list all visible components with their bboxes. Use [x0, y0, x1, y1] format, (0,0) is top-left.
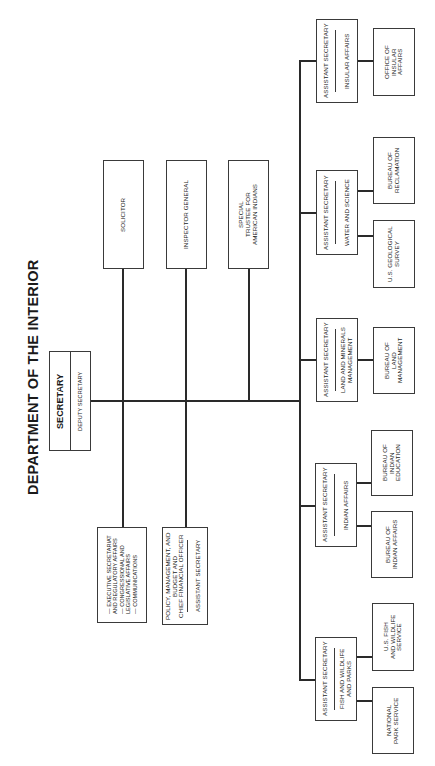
- solicitor-box: SOLICITOR: [103, 160, 144, 269]
- as-area: INDIAN AFFAIRS: [335, 464, 357, 546]
- us-fish-and-wildlife-service-box: U.S. FISH AND WILDLIFE SERVICE: [372, 603, 414, 671]
- as-area: FISH AND WILDLIFE AND PARKS: [335, 638, 357, 720]
- bureau-label: U.S. FISH AND WILDLIFE SERVICE: [373, 604, 413, 670]
- special-trustee-label: SPECIAL TRUSTEE FOR AMERICAN INDIANS: [229, 161, 268, 268]
- connector-office-insular: [357, 60, 373, 62]
- connector-as-water: [299, 212, 317, 214]
- bureau-label: BUREAU OF RECLAMATION: [374, 138, 414, 203]
- as-title: ASSISTANT SECRETARY: [316, 464, 334, 546]
- as-title: ASSISTANT SECRETARY: [317, 20, 335, 102]
- bureau-label: BUREAU OF INDIAN EDUCATION: [372, 431, 412, 495]
- connector-as-insular: [299, 60, 317, 62]
- policy-subtitle: POLICY, MANAGEMENT, AND BUDGET AND CHIEF…: [163, 528, 187, 624]
- connector-nps: [357, 700, 373, 702]
- as-area: INSULAR AFFAIRS: [336, 20, 358, 102]
- bureau-label: U.S. GEOLOGICAL SURVEY: [374, 221, 414, 287]
- connector-special-trustee: [248, 268, 250, 401]
- connector-usgs: [357, 235, 373, 237]
- as-indian-affairs-box: ASSISTANT SECRETARY INDIAN AFFAIRS: [315, 463, 357, 547]
- bureau-of-reclamation-box: BUREAU OF RECLAMATION: [373, 137, 415, 204]
- connector-as-land: [299, 359, 317, 361]
- bureau-label: NATIONAL PARK SERVICE: [373, 688, 413, 753]
- assistant-secretary-policy-box: ASSISTANT SECRETARY POLICY, MANAGEMENT, …: [162, 527, 208, 625]
- bureau-label: BUREAU OF LAND MANAGEMENT: [374, 328, 414, 393]
- connector-blm: [357, 359, 373, 361]
- chart-title: DEPARTMENT OF THE INTERIOR: [18, 245, 48, 510]
- us-geological-survey-box: U.S. GEOLOGICAL SURVEY: [373, 220, 415, 288]
- connector-spine: [299, 60, 301, 680]
- bureau-label: OFFICE OF INSULAR AFFAIRS: [374, 29, 414, 95]
- as-water-and-science-box: ASSISTANT SECRETARY WATER AND SCIENCE: [316, 170, 358, 255]
- inspector-general-label: INSPECTOR GENERAL: [167, 161, 206, 268]
- staff-offices-list: — EXECUTIVE SECRETARIAT AND REGULATORY A…: [98, 528, 146, 622]
- bureau-of-indian-education-box: BUREAU OF INDIAN EDUCATION: [371, 430, 413, 496]
- connector-staff-offices: [122, 400, 124, 527]
- as-title: ASSISTANT SECRETARY: [317, 171, 335, 254]
- connector-policy: [185, 400, 187, 527]
- as-area: WATER AND SCIENCE: [336, 171, 358, 254]
- deputy-secretary: DEPUTY SECRETARY: [70, 352, 90, 450]
- solicitor-label: SOLICITOR: [104, 161, 143, 268]
- inspector-general-box: INSPECTOR GENERAL: [166, 160, 207, 269]
- connector-reclamation: [357, 190, 373, 192]
- staff-offices-box: — EXECUTIVE SECRETARIAT AND REGULATORY A…: [97, 527, 147, 623]
- as-area: LAND AND MINERALS MANAGEMENT: [336, 319, 358, 401]
- connector-solicitor: [122, 268, 124, 401]
- connector-fws: [357, 656, 373, 658]
- as-title: ASSISTANT SECRETARY: [317, 319, 335, 401]
- staff-office-line: AND REGULATORY AFFAIRS: [112, 536, 118, 615]
- office-of-insular-affairs-box: OFFICE OF INSULAR AFFAIRS: [373, 28, 415, 96]
- as-fish-wildlife-parks-box: ASSISTANT SECRETARY FISH AND WILDLIFE AN…: [315, 637, 357, 721]
- special-trustee-box: SPECIAL TRUSTEE FOR AMERICAN INDIANS: [228, 160, 269, 269]
- secretary-box: SECRETARY DEPUTY SECRETARY: [49, 351, 91, 451]
- connector-inspector-general: [185, 268, 187, 401]
- as-land-and-minerals-box: ASSISTANT SECRETARY LAND AND MINERALS MA…: [316, 318, 358, 402]
- secretary-title: SECRETARY: [50, 352, 71, 450]
- policy-title: ASSISTANT SECRETARY: [189, 528, 207, 624]
- policy-divider: [187, 540, 188, 613]
- bureau-label: BUREAU OF INDIAN AFFAIRS: [372, 512, 412, 577]
- bureau-of-indian-affairs-box: BUREAU OF INDIAN AFFAIRS: [371, 511, 413, 578]
- staff-office-line: — COMMUNICATIONS: [132, 536, 138, 615]
- bureau-of-land-management-box: BUREAU OF LAND MANAGEMENT: [373, 327, 415, 394]
- as-insular-affairs-box: ASSISTANT SECRETARY INSULAR AFFAIRS: [316, 19, 358, 103]
- national-park-service-box: NATIONAL PARK SERVICE: [372, 687, 414, 754]
- as-title: ASSISTANT SECRETARY: [316, 638, 334, 720]
